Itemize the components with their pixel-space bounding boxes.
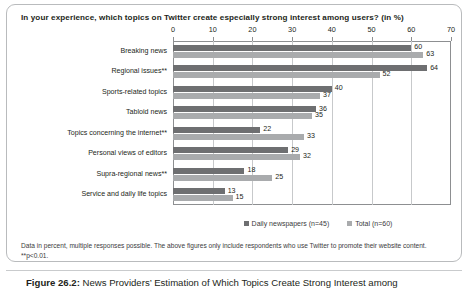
x-tick-60 xyxy=(411,37,412,41)
figure-caption-label: Figure 26.2: xyxy=(26,277,80,288)
bar xyxy=(173,93,320,99)
category-label: Tabloid news xyxy=(7,108,167,116)
chart-title: In your experience, which topics on Twit… xyxy=(21,13,451,22)
bar-value-label: 22 xyxy=(263,125,271,133)
x-tick-label-20: 20 xyxy=(248,25,256,34)
bar-value-label: 40 xyxy=(335,84,343,92)
bar-value-label: 32 xyxy=(303,152,311,160)
figure-caption: Figure 26.2: News Providers’ Estimation … xyxy=(26,277,464,288)
caption-divider xyxy=(6,270,462,271)
bar-value-label: 15 xyxy=(236,193,244,201)
bar xyxy=(173,72,380,78)
category-label: Topics concerning the internet** xyxy=(7,129,167,137)
bar-value-label: 64 xyxy=(430,64,438,72)
legend-swatch-icon xyxy=(244,221,249,226)
legend-item: Total (n=60) xyxy=(347,220,392,227)
x-tick-30 xyxy=(292,37,293,41)
x-tick-label-30: 30 xyxy=(288,25,296,34)
x-tick-label-50: 50 xyxy=(368,25,376,34)
x-tick-50 xyxy=(372,37,373,41)
bar-value-label: 29 xyxy=(291,146,299,154)
bar-value-label: 25 xyxy=(275,173,283,181)
legend-label: Daily newspapers (n=45) xyxy=(252,220,330,227)
bar xyxy=(173,113,312,119)
bar-value-label: 60 xyxy=(414,43,422,51)
category-label: Sports-related topics xyxy=(7,88,167,96)
x-tick-label-70: 70 xyxy=(447,25,455,34)
bar xyxy=(173,188,225,194)
x-tick-20 xyxy=(252,37,253,41)
bar xyxy=(173,147,288,153)
bar xyxy=(173,168,244,174)
bar-value-label: 52 xyxy=(383,70,391,78)
bar xyxy=(173,154,300,160)
bar-value-label: 33 xyxy=(307,132,315,140)
category-label: Regional issues** xyxy=(7,67,167,75)
category-label: Service and daily life topics xyxy=(7,190,167,198)
figure-page: In your experience, which topics on Twit… xyxy=(0,0,471,297)
bar xyxy=(173,175,272,181)
bar-value-label: 35 xyxy=(315,111,323,119)
category-label: Personal views of editors xyxy=(7,149,167,157)
x-tick-10 xyxy=(213,37,214,41)
chart-legend: Daily newspapers (n=45)Total (n=60) xyxy=(173,220,463,227)
x-tick-label-0: 0 xyxy=(171,25,175,34)
bar xyxy=(173,134,304,140)
x-tick-label-40: 40 xyxy=(328,25,336,34)
bar xyxy=(173,86,332,92)
bar xyxy=(173,52,423,58)
chart-footnote: Data in percent, multiple responses poss… xyxy=(21,241,445,260)
x-tick-0 xyxy=(173,37,174,41)
bar xyxy=(173,106,316,112)
x-tick-label-10: 10 xyxy=(209,25,217,34)
figure-caption-text: News Providers’ Estimation of Which Topi… xyxy=(80,277,398,288)
legend-label: Total (n=60) xyxy=(355,220,392,227)
bar-value-label: 37 xyxy=(323,91,331,99)
category-label: Breaking news xyxy=(7,47,167,55)
plot-area: 010203040506070 Breaking newsRegional is… xyxy=(173,41,451,205)
legend-swatch-icon xyxy=(347,221,352,226)
x-tick-40 xyxy=(332,37,333,41)
bar-value-label: 63 xyxy=(426,50,434,58)
bar-value-label: 18 xyxy=(247,166,255,174)
category-label: Supra-regional news** xyxy=(7,170,167,178)
x-tick-label-60: 60 xyxy=(407,25,415,34)
bar-value-label: 13 xyxy=(228,187,236,195)
x-tick-70 xyxy=(451,37,452,41)
bar xyxy=(173,127,260,133)
bar xyxy=(173,45,411,51)
chart-frame: In your experience, which topics on Twit… xyxy=(6,4,462,262)
bar xyxy=(173,195,233,201)
legend-item: Daily newspapers (n=45) xyxy=(244,220,330,227)
